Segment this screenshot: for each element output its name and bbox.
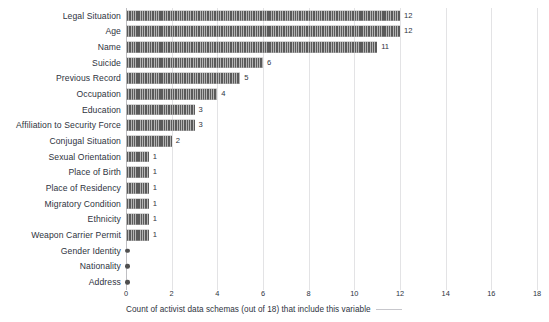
bar-value-label: 6 (267, 59, 271, 67)
category-label: Nationality (80, 262, 121, 271)
category-label: Place of Residency (46, 184, 121, 193)
bar-row[interactable]: Education3 (126, 102, 537, 118)
bar-row[interactable]: Conjugal Situation2 (126, 133, 537, 149)
bar[interactable] (126, 214, 149, 225)
bar-value-label: 1 (153, 231, 157, 239)
bar-value-label: 5 (244, 75, 248, 83)
x-tick-label: 16 (487, 290, 495, 297)
category-label: Gender Identity (61, 247, 121, 256)
category-label: Conjugal Situation (49, 137, 121, 146)
bar-value-label: 1 (153, 200, 157, 208)
x-tick-label: 8 (307, 290, 311, 297)
bar-row[interactable]: Gender Identity (126, 243, 537, 259)
bar-row[interactable]: Name11 (126, 39, 537, 55)
bar-value-label: 1 (153, 169, 157, 177)
bar-row[interactable]: Previous Record5 (126, 71, 537, 87)
bar-row[interactable]: Age12 (126, 24, 537, 40)
x-axis-title: Count of activist data schemas (out of 1… (126, 306, 402, 314)
bar-value-label: 1 (153, 153, 157, 161)
category-label: Sexual Orientation (48, 153, 121, 162)
bar-value-label: 11 (381, 43, 389, 51)
x-tick-label: 10 (350, 290, 358, 297)
bar-value-label: 4 (221, 90, 225, 98)
bar-value-label: 3 (199, 106, 203, 114)
bar-row[interactable]: Affiliation to Security Force3 (126, 118, 537, 134)
bar[interactable] (126, 230, 149, 241)
category-label: Affiliation to Security Force (16, 121, 121, 130)
bar[interactable] (126, 42, 377, 53)
bar[interactable] (126, 167, 149, 178)
bar-row[interactable]: Ethnicity1 (126, 212, 537, 228)
category-label: Age (105, 27, 121, 36)
bar-row[interactable]: Address (126, 274, 537, 290)
bar[interactable] (126, 26, 400, 37)
x-tick-label: 14 (442, 290, 450, 297)
bar[interactable] (126, 136, 172, 147)
bar-row[interactable]: Sexual Orientation1 (126, 149, 537, 165)
bar[interactable] (125, 264, 130, 269)
category-label: Weapon Carrier Permit (31, 231, 121, 240)
bar[interactable] (126, 89, 217, 100)
bar[interactable] (126, 58, 263, 69)
category-label: Place of Birth (68, 168, 121, 177)
category-label: Legal Situation (63, 12, 121, 21)
category-label: Occupation (77, 90, 121, 99)
x-axis-title-text: Count of activist data schemas (out of 1… (126, 305, 371, 314)
x-tick-label: 4 (215, 290, 219, 297)
bar-row[interactable]: Occupation4 (126, 86, 537, 102)
x-tick-label: 2 (170, 290, 174, 297)
x-tick-label: 6 (261, 290, 265, 297)
bar[interactable] (126, 152, 149, 163)
x-tick-label: 12 (396, 290, 404, 297)
category-label: Previous Record (56, 74, 121, 83)
category-label: Name (98, 43, 121, 52)
bar[interactable] (126, 183, 149, 194)
x-tick-label: 0 (124, 290, 128, 297)
bar-value-label: 1 (153, 184, 157, 192)
plot-area: Legal Situation12Age12Name11Suicide6Prev… (126, 8, 537, 290)
category-label: Education (82, 106, 121, 115)
bar-row[interactable]: Migratory Condition1 (126, 196, 537, 212)
bar-value-label: 1 (153, 216, 157, 224)
bar-row[interactable]: Place of Residency1 (126, 180, 537, 196)
bar-value-label: 3 (199, 122, 203, 130)
bar[interactable] (126, 120, 195, 131)
bar-value-label: 12 (404, 28, 412, 36)
category-label: Address (89, 278, 121, 287)
bar[interactable] (125, 280, 130, 285)
bar[interactable] (126, 199, 149, 210)
bar[interactable] (126, 73, 240, 84)
bar-value-label: 12 (404, 12, 412, 20)
gridline-18 (537, 8, 538, 290)
x-tick-label: 18 (533, 290, 541, 297)
x-axis-title-rule (376, 309, 402, 310)
bar-row[interactable]: Legal Situation12 (126, 8, 537, 24)
category-label: Ethnicity (88, 215, 121, 224)
category-label: Migratory Condition (45, 200, 121, 209)
bar-row[interactable]: Weapon Carrier Permit1 (126, 227, 537, 243)
bar-row[interactable]: Suicide6 (126, 55, 537, 71)
bar-row[interactable]: Place of Birth1 (126, 165, 537, 181)
bar-rows: Legal Situation12Age12Name11Suicide6Prev… (126, 8, 537, 290)
bar-row[interactable]: Nationality (126, 259, 537, 275)
bar[interactable] (125, 249, 130, 254)
x-axis-ticks: 024681012141618 (126, 290, 537, 306)
category-label: Suicide (92, 59, 121, 68)
bar-chart: Legal Situation12Age12Name11Suicide6Prev… (0, 0, 549, 322)
bar-value-label: 2 (176, 137, 180, 145)
bar[interactable] (126, 11, 400, 22)
bar[interactable] (126, 105, 195, 116)
